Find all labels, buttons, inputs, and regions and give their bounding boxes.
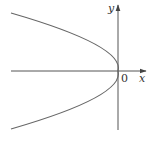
x-axis-label: x <box>139 72 146 85</box>
y-axis-label: y <box>107 2 115 15</box>
parabola-graph: y 0 x <box>0 0 149 144</box>
origin-label: 0 <box>121 72 128 85</box>
